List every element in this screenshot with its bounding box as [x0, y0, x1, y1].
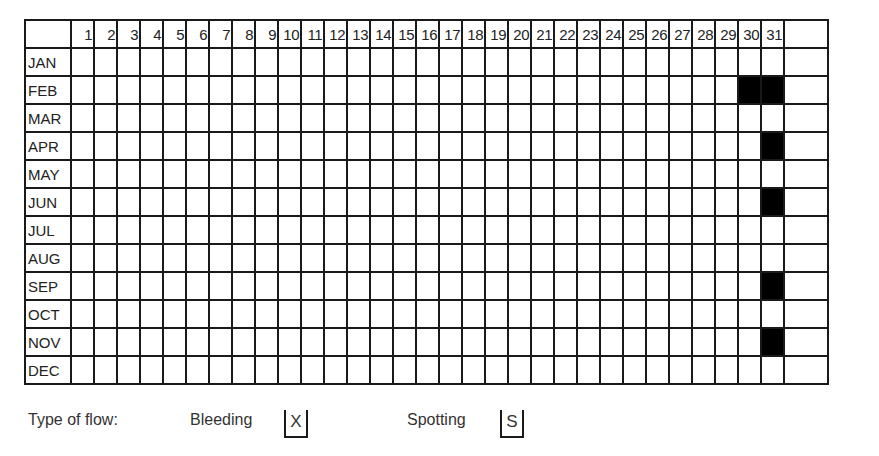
day-cell: [416, 48, 439, 76]
day-cell: [577, 244, 600, 272]
day-cell: [347, 272, 370, 300]
day-cell: [577, 300, 600, 328]
day-header: 23: [577, 20, 600, 48]
day-cell: [485, 160, 508, 188]
day-cell: [370, 48, 393, 76]
menstrual-calendar-grid: 1234567891011121314151617181920212223242…: [24, 19, 829, 385]
day-header: 11: [301, 20, 324, 48]
day-cell: [462, 244, 485, 272]
day-cell: [186, 48, 209, 76]
day-cell: [347, 244, 370, 272]
day-cell: [209, 104, 232, 132]
month-row: JUN: [25, 188, 828, 216]
header-row: 1234567891011121314151617181920212223242…: [25, 20, 828, 48]
day-cell: [324, 328, 347, 356]
day-cell: [784, 104, 828, 132]
day-cell: [94, 272, 117, 300]
day-cell: [324, 244, 347, 272]
day-cell: [646, 104, 669, 132]
day-cell: [232, 48, 255, 76]
day-cell: [117, 356, 140, 384]
legend-spotting-label: Spotting: [407, 411, 466, 429]
day-cell: [278, 160, 301, 188]
day-header: 18: [462, 20, 485, 48]
day-cell: [255, 216, 278, 244]
day-cell: [117, 104, 140, 132]
day-cell: [715, 104, 738, 132]
day-cell: [94, 188, 117, 216]
day-cell: [370, 132, 393, 160]
day-cell: [577, 160, 600, 188]
day-cell: [209, 48, 232, 76]
day-cell: [163, 272, 186, 300]
day-cell: [439, 356, 462, 384]
day-cell: [255, 272, 278, 300]
day-header: 29: [715, 20, 738, 48]
day-cell: [692, 300, 715, 328]
day-cell: [186, 356, 209, 384]
day-cell: [531, 328, 554, 356]
day-cell: [462, 132, 485, 160]
day-cell: [600, 244, 623, 272]
day-cell: [554, 244, 577, 272]
day-cell: [232, 160, 255, 188]
day-cell: [623, 104, 646, 132]
day-cell: [186, 216, 209, 244]
day-cell: [715, 300, 738, 328]
day-cell: [439, 132, 462, 160]
day-cell: [715, 48, 738, 76]
day-cell: [94, 104, 117, 132]
day-header: 15: [393, 20, 416, 48]
day-cell: [439, 188, 462, 216]
day-header: 28: [692, 20, 715, 48]
day-cell: [554, 160, 577, 188]
day-cell: [94, 216, 117, 244]
day-cell: [324, 188, 347, 216]
month-row: AUG: [25, 244, 828, 272]
day-cell: [71, 188, 94, 216]
day-cell: [117, 328, 140, 356]
day-cell: [784, 328, 828, 356]
month-label: JAN: [25, 48, 71, 76]
month-row: SEP: [25, 272, 828, 300]
day-cell: [439, 104, 462, 132]
day-cell: [416, 328, 439, 356]
day-cell: [186, 104, 209, 132]
day-cell: [508, 272, 531, 300]
day-cell: [784, 356, 828, 384]
day-cell: [71, 356, 94, 384]
day-cell: [761, 104, 784, 132]
day-header: 20: [508, 20, 531, 48]
day-cell: [393, 356, 416, 384]
month-label: JUN: [25, 188, 71, 216]
day-cell: [577, 48, 600, 76]
day-cell: [531, 244, 554, 272]
day-cell: [255, 356, 278, 384]
day-cell: [508, 244, 531, 272]
day-cell: [163, 132, 186, 160]
day-cell: [117, 48, 140, 76]
day-cell: [715, 76, 738, 104]
day-cell: [508, 328, 531, 356]
day-cell: [646, 328, 669, 356]
day-cell: [554, 216, 577, 244]
day-cell: [669, 48, 692, 76]
day-cell: [623, 132, 646, 160]
day-cell: [301, 356, 324, 384]
day-cell: [186, 132, 209, 160]
day-cell: [140, 104, 163, 132]
day-cell: [462, 48, 485, 76]
day-cell: [324, 356, 347, 384]
day-cell: [393, 300, 416, 328]
day-cell: [692, 272, 715, 300]
day-cell: [370, 272, 393, 300]
day-cell: [531, 300, 554, 328]
month-label: SEP: [25, 272, 71, 300]
day-cell: [485, 300, 508, 328]
filled-day-cell: [761, 328, 784, 356]
day-cell: [761, 356, 784, 384]
day-cell: [163, 216, 186, 244]
day-cell: [577, 272, 600, 300]
day-cell: [692, 76, 715, 104]
day-cell: [324, 216, 347, 244]
